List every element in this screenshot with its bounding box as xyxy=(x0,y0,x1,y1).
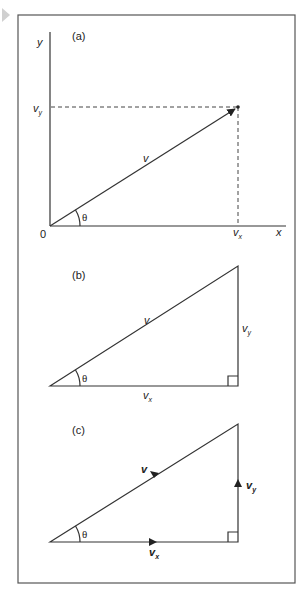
angle-arc-b xyxy=(76,370,81,386)
origin-label: 0 xyxy=(40,228,46,240)
side-vy-label-c: vy xyxy=(246,479,257,494)
triangle-b xyxy=(50,266,238,386)
hypotenuse-v-label-c: v xyxy=(141,463,148,475)
panel-b: (b) θ v vx vy xyxy=(50,266,252,403)
y-axis-label: y xyxy=(36,36,44,48)
panel-b-label: (b) xyxy=(72,269,85,281)
angle-theta-label-c: θ xyxy=(82,528,87,540)
vx-label: vx xyxy=(233,226,243,240)
vector-v-label: v xyxy=(143,152,150,164)
play-marker-icon xyxy=(2,8,10,22)
triangle-c xyxy=(50,424,238,542)
angle-theta-label-b: θ xyxy=(82,372,87,384)
side-vy-label-b: vy xyxy=(242,322,252,337)
vector-components-diagram: (a) y x 0 θ v vy vx (b) θ v vx vy (c) θ xyxy=(0,0,301,603)
hypotenuse-v-label-b: v xyxy=(144,314,151,326)
vector-tip-point xyxy=(236,105,240,109)
angle-arc xyxy=(76,210,81,226)
panel-c-label: (c) xyxy=(72,424,85,436)
right-angle-marker-c xyxy=(228,532,238,542)
panel-a-label: (a) xyxy=(72,30,85,42)
panel-c: (c) θ v vx vy xyxy=(50,424,257,560)
right-angle-marker-b xyxy=(228,376,238,386)
base-arrowhead xyxy=(149,538,157,546)
x-axis-label: x xyxy=(275,226,282,238)
angle-arc-c xyxy=(76,526,81,542)
angle-theta-label: θ xyxy=(82,211,87,223)
base-vx-label-c: vx xyxy=(149,546,160,560)
base-vx-label-b: vx xyxy=(143,389,153,403)
figure-frame xyxy=(18,15,295,583)
panel-a: (a) y x 0 θ v vy vx xyxy=(33,30,286,240)
side-arrowhead xyxy=(234,479,242,487)
vy-label: vy xyxy=(33,102,43,117)
vector-v-arrow xyxy=(50,109,235,226)
